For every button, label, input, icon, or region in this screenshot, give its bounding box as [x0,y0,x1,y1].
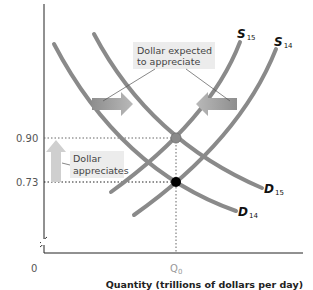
appreciation-arrow-icon [46,140,66,182]
appreciates-note-line2: appreciates [73,165,129,176]
label-D15: D15 [264,182,284,197]
x-axis-label: Quantity (trillions of dollars per day) [106,279,303,290]
curve-S14 [134,49,276,215]
expected-note-line1: Dollar expected [137,45,212,56]
equilibrium-initial [171,177,181,187]
y-tick-090: 0.90 [16,133,38,144]
expected-note-line2: to appreciate [137,56,200,67]
axis-break-gap [41,239,47,245]
appreciates-note-line1: Dollar [73,153,101,164]
label-S15: S15 [237,27,256,42]
exchange-rate-chart: Dollar expected to appreciate Dollar app… [0,0,313,290]
supply-shift-arrow-icon [196,92,237,116]
x-tick-q0: Q0 [170,263,182,276]
label-D14: D14 [238,205,258,220]
equilibrium-new [171,133,181,143]
curve-D14 [54,44,236,211]
y-tick-073: 0.73 [16,177,38,188]
expected-note-leader-d [103,69,155,101]
origin-label: 0 [31,263,37,274]
label-S14: S14 [274,35,293,50]
appreciates-note-leader [62,163,70,165]
